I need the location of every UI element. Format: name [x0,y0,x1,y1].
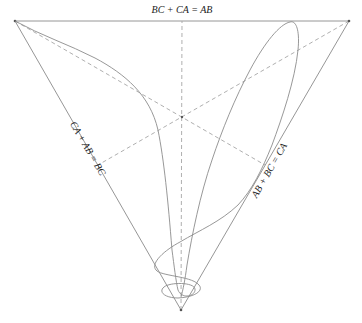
centroid [181,116,183,118]
vertex-bottom [180,309,183,312]
median-top-right [98,21,349,165]
right-edge-label: AB + BC = CA [248,140,289,200]
top-edge-label: BC + CA = AB [152,4,213,15]
triangle-diagram: BC + CA = AB CA + AB = BC AB + BC = CA [0,0,362,323]
left-edge-label: CA + AB = BC [68,119,108,178]
vertex-top-right [348,20,351,23]
median-bottom [181,21,182,310]
trajectory-curve [15,21,299,298]
